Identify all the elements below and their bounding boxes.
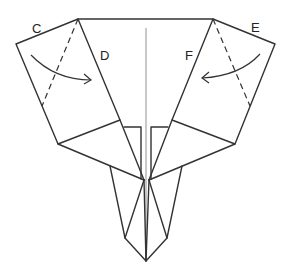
right-fold-arrow: [202, 54, 260, 78]
left-flap: [16, 19, 120, 144]
left-arrow-head-icon: [84, 74, 91, 84]
tail-right-inner: [149, 180, 167, 238]
tail-center-right: [146, 180, 149, 261]
label-e: E: [251, 20, 260, 35]
label-c: C: [32, 21, 41, 36]
right-flap: [172, 19, 275, 144]
right-diagonal-lower: [149, 120, 172, 180]
origami-diagram-svg: C D F E: [0, 0, 291, 278]
label-d: D: [100, 48, 109, 63]
tail-left-inner: [125, 180, 144, 238]
label-f: F: [185, 48, 193, 63]
right-bottom-edge: [149, 144, 235, 180]
origami-diagram: C D F E: [0, 0, 291, 278]
